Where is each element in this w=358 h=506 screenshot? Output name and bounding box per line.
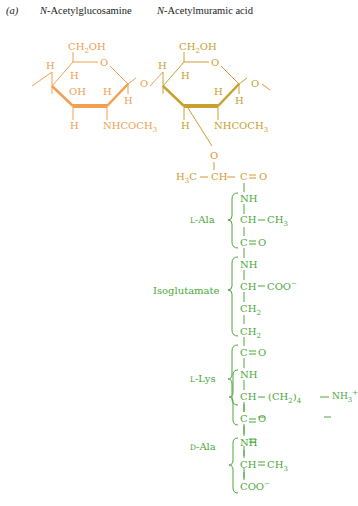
peptide-braces: [0, 0, 351, 506]
